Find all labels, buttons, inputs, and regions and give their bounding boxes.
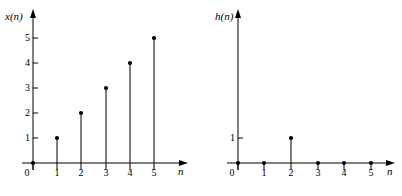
x-axis-label: n [387, 166, 393, 177]
y-tick-label-1: 1 [223, 133, 235, 143]
x-tick-label-3: 3 [100, 168, 112, 178]
right-plot-panel: h(n) n 1 0 1 2 3 4 5 [201, 0, 402, 196]
y-axis-label: h(n) [215, 11, 233, 22]
stem-marker-n3 [104, 86, 108, 90]
stem-marker-n2 [289, 136, 293, 140]
stem-marker-n3 [316, 161, 320, 165]
x-tick-label-5: 5 [148, 168, 160, 178]
stem-marker-n0 [31, 161, 35, 165]
x-tick-label-2: 2 [285, 168, 297, 178]
x-tick-label-3: 3 [312, 168, 324, 178]
stem-marker-n5 [152, 36, 156, 40]
y-tick-label-4: 4 [18, 58, 30, 68]
left-plot-panel: x(n) n 1 2 3 4 5 0 1 2 3 4 5 [0, 0, 201, 196]
stem-marker-n5 [369, 161, 373, 165]
stem-marker-n4 [342, 161, 346, 165]
y-tick-label-5: 5 [18, 33, 30, 43]
stem-plot-figure: x(n) n 1 2 3 4 5 0 1 2 3 4 5 [0, 0, 402, 196]
y-axis-arrowhead-icon [235, 9, 241, 18]
x-tick-label-4: 4 [124, 168, 136, 178]
stem-marker-n0 [236, 161, 240, 165]
stem-marker-n1 [262, 161, 266, 165]
y-tick-label-1: 1 [18, 133, 30, 143]
x-tick-label-1: 1 [51, 168, 63, 178]
stem-marker-n2 [79, 111, 83, 115]
y-tick-label-3: 3 [18, 83, 30, 93]
stem-marker-n1 [55, 136, 59, 140]
x-tick-label-4: 4 [338, 168, 350, 178]
stem-marker-n4 [128, 61, 132, 65]
x-tick-label-2: 2 [75, 168, 87, 178]
y-tick-label-2: 2 [18, 108, 30, 118]
stem-group [31, 36, 156, 165]
x-tick-label-5: 5 [365, 168, 377, 178]
y-axis-label: x(n) [5, 11, 23, 22]
y-axis-arrowhead-icon [30, 9, 36, 18]
x-tick-label-0: 0 [226, 168, 238, 178]
stem-group [236, 136, 373, 165]
left-plot-graphics [0, 0, 201, 196]
x-tick-label-0: 0 [21, 168, 33, 178]
x-tick-label-1: 1 [258, 168, 270, 178]
x-axis-label: n [178, 166, 184, 177]
